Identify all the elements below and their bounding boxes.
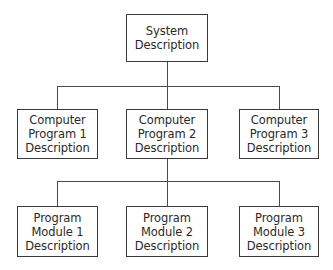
connector-level1-bus — [57, 86, 279, 87]
connector-level2-bus — [57, 181, 279, 182]
node-line: Module 3 — [253, 225, 305, 239]
program-module-1-node: Program Module 1 Description — [17, 206, 98, 257]
node-line: Module 2 — [141, 225, 193, 239]
connector-to-program-2 — [167, 86, 168, 109]
node-line: Program 1 — [28, 127, 87, 141]
node-line: Computer — [251, 113, 307, 127]
computer-program-3-node: Computer Program 3 Description — [239, 109, 319, 159]
node-line: Program 3 — [250, 127, 309, 141]
connector-to-program-3 — [279, 86, 280, 109]
program-module-3-node: Program Module 3 Description — [239, 206, 319, 257]
computer-program-2-node: Computer Program 2 Description — [126, 109, 208, 159]
node-line: Program 2 — [138, 127, 197, 141]
node-line: Computer — [139, 113, 195, 127]
node-line: Program — [34, 211, 82, 225]
node-line: Description — [135, 38, 199, 52]
program-module-2-node: Program Module 2 Description — [126, 206, 208, 257]
node-line: System — [146, 24, 188, 38]
computer-program-1-node: Computer Program 1 Description — [17, 109, 98, 159]
connector-root-down — [167, 61, 168, 86]
connector-to-module-3 — [279, 181, 280, 206]
node-line: Program — [255, 211, 303, 225]
node-line: Module 1 — [32, 225, 84, 239]
connector-program-2-down — [167, 158, 168, 181]
node-line: Description — [135, 239, 199, 253]
node-line: Description — [247, 239, 311, 253]
system-description-node: System Description — [126, 14, 208, 62]
node-line: Description — [25, 141, 89, 155]
connector-to-module-1 — [57, 181, 58, 206]
node-line: Description — [247, 141, 311, 155]
node-line: Program — [143, 211, 191, 225]
connector-to-module-2 — [167, 181, 168, 206]
node-line: Computer — [29, 113, 85, 127]
node-line: Description — [25, 239, 89, 253]
node-line: Description — [135, 141, 199, 155]
connector-to-program-1 — [57, 86, 58, 109]
